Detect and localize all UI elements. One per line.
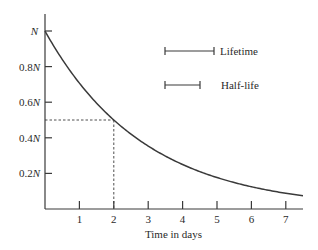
x-label-7: 7 [283,213,289,225]
y-label-N: N [30,25,39,37]
y-ticks [45,31,52,173]
legend-lifetime-label: Lifetime [220,45,258,57]
x-label-2: 2 [111,213,117,225]
x-tick-labels: 1 2 3 4 5 6 7 [77,213,289,225]
x-label-3: 3 [145,213,151,225]
x-label-5: 5 [214,213,220,225]
legend-half-life-label: Half-life [221,79,259,91]
y-label-02: 0.2N [19,167,41,179]
y-label-08: 0.8N [19,61,41,73]
y-tick-labels: N 0.8N 0.6N 0.4N 0.2N [19,25,41,179]
x-label-1: 1 [77,213,83,225]
y-label-04: 0.4N [19,132,41,144]
y-label-06: 0.6N [19,96,41,108]
x-label-4: 4 [180,213,186,225]
x-ticks [79,201,285,209]
x-axis-title: Time in days [145,228,202,240]
decay-chart: N 0.8N 0.6N 0.4N 0.2N 1 2 3 4 5 6 7 Time… [0,0,318,250]
decay-curve [45,31,303,196]
x-label-6: 6 [249,213,255,225]
legend-lifetime: Lifetime [165,45,258,57]
legend-half-life: Half-life [165,79,259,91]
legend: Lifetime Half-life [165,45,259,91]
